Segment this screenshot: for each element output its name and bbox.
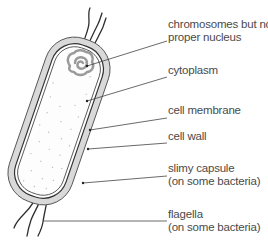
leader-cell-membrane bbox=[90, 118, 167, 130]
label-slimy-capsule-line1: slimy capsule bbox=[168, 162, 260, 175]
label-slimy-capsule-line2: (on some bacteria) bbox=[168, 175, 260, 188]
label-chromosomes-line1: chromosomes but no bbox=[168, 18, 268, 31]
label-cell-membrane: cell membrane bbox=[168, 104, 241, 117]
label-cytoplasm: cytoplasm bbox=[168, 64, 218, 77]
label-slimy-capsule: slimy capsule (on some bacteria) bbox=[168, 162, 260, 188]
leader-cell-wall bbox=[88, 143, 167, 149]
label-cell-wall: cell wall bbox=[168, 130, 206, 143]
label-cell-membrane-line1: cell membrane bbox=[168, 104, 241, 117]
label-chromosomes-line2: proper nucleus bbox=[168, 31, 268, 44]
label-flagella: flagella (on some bacteria) bbox=[168, 208, 260, 234]
label-chromosomes: chromosomes but no proper nucleus bbox=[168, 18, 268, 44]
label-flagella-line1: flagella bbox=[168, 208, 260, 221]
label-cell-wall-line1: cell wall bbox=[168, 130, 206, 143]
leader-slimy-capsule bbox=[83, 176, 167, 183]
label-cytoplasm-line1: cytoplasm bbox=[168, 64, 218, 77]
label-flagella-line2: (on some bacteria) bbox=[168, 221, 260, 234]
